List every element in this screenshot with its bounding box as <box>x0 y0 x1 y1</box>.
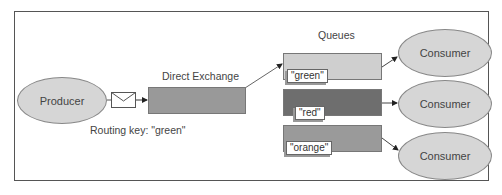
queue-tag-orange: "orange" <box>286 141 332 155</box>
producer-label: Producer <box>40 95 85 107</box>
consumer-node-1: Consumer <box>398 29 492 77</box>
consumer-node-3: Consumer <box>398 132 492 180</box>
queue-tag-green: "green" <box>287 69 328 83</box>
routing-key-label: Routing key: "green" <box>90 124 186 136</box>
queues-title: Queues <box>318 29 355 41</box>
consumer-label: Consumer <box>420 98 471 110</box>
consumer-node-2: Consumer <box>398 80 492 128</box>
direct-exchange <box>148 87 246 114</box>
consumer-label: Consumer <box>420 47 471 59</box>
producer-node: Producer <box>17 77 107 124</box>
exchange-label: Direct Exchange <box>162 70 239 82</box>
envelope-icon <box>111 92 136 108</box>
consumer-label: Consumer <box>420 150 471 162</box>
queue-tag-red: "red" <box>295 106 325 120</box>
